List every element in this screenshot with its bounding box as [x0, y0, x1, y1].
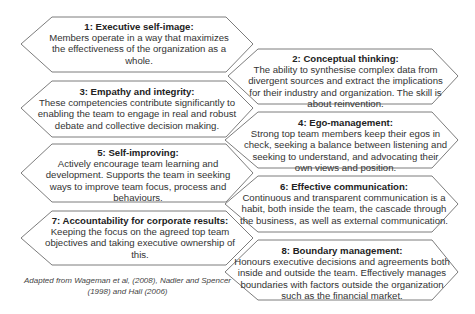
competency-title: 3: Empathy and integrity:: [37, 86, 237, 97]
competency-6: 6: Effective communication: Continuous a…: [238, 181, 450, 226]
competency-2: 2: Conceptual thinking: The ability to s…: [243, 53, 448, 109]
competency-description: The ability to synthesise complex data f…: [243, 64, 448, 109]
competency-8: 8: Boundary management: Honours executiv…: [234, 245, 450, 301]
competency-description: Strong top team members keep their egos …: [243, 128, 448, 173]
competency-4: 4: Ego-management: Strong top team membe…: [243, 117, 448, 173]
competency-description: These competencies contribute significan…: [37, 97, 237, 131]
competency-description: Actively encourage team learning and dev…: [35, 158, 241, 203]
competency-title: 8: Boundary management:: [234, 245, 450, 256]
competency-5: 5: Self-improving: Actively encourage te…: [35, 147, 241, 203]
competency-1: 1: Executive self-image: Members operate…: [45, 21, 233, 66]
competency-title: 5: Self-improving:: [35, 147, 241, 158]
competency-title: 6: Effective communication:: [238, 181, 450, 192]
competency-title: 4: Ego-management:: [243, 117, 448, 128]
competency-description: Members operate in a way that maximizes …: [45, 32, 233, 66]
competency-description: Continuous and transparent communication…: [238, 192, 450, 226]
competency-7: 7: Accountability for corporate results:…: [45, 215, 235, 260]
competency-3: 3: Empathy and integrity: These competen…: [37, 86, 237, 131]
competency-description: Honours executive decisions and agreemen…: [234, 256, 450, 301]
competency-title: 7: Accountability for corporate results:: [45, 215, 235, 226]
source-caption: Adapted from Wageman et al, (2008), Nadl…: [20, 275, 235, 297]
competency-title: 2: Conceptual thinking:: [243, 53, 448, 64]
competency-description: Keeping the focus on the agreed top team…: [45, 226, 235, 260]
competency-title: 1: Executive self-image:: [45, 21, 233, 32]
